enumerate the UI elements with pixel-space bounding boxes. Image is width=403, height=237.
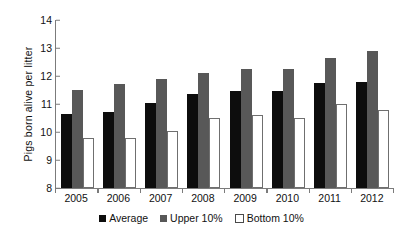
bar (61, 114, 72, 188)
x-axis-labels: 20052006200720082009201020112012 (55, 192, 393, 204)
y-axis-tick: 12 (40, 71, 56, 82)
bar-group (98, 20, 140, 188)
bar (198, 73, 209, 188)
bar-group (225, 20, 267, 188)
bar-group (183, 20, 225, 188)
x-axis-tick-label: 2009 (224, 192, 266, 204)
bar (336, 104, 347, 188)
bar-group (141, 20, 183, 188)
legend-swatch (235, 214, 244, 223)
y-axis-tick: 10 (40, 127, 56, 138)
bar (167, 131, 178, 188)
legend-label: Average (109, 212, 148, 224)
bar (156, 79, 167, 188)
bar (272, 91, 283, 188)
y-axis-tick: 9 (46, 155, 56, 166)
y-axis-tick: 11 (41, 99, 56, 110)
bar (252, 115, 263, 188)
bar (145, 103, 156, 188)
bar-group (310, 20, 352, 188)
bar (230, 91, 241, 188)
legend-label: Upper 10% (170, 212, 223, 224)
bar (356, 82, 367, 188)
x-axis-tick-label: 2005 (55, 192, 97, 204)
bar (72, 90, 83, 188)
bar (283, 69, 294, 188)
y-axis-tick-label: 12 (40, 71, 56, 82)
y-axis-tick-label: 14 (40, 15, 56, 26)
bar-group (56, 20, 98, 188)
bar (125, 138, 136, 188)
bar (209, 118, 220, 188)
legend-item: Upper 10% (160, 212, 223, 224)
bar-group (352, 20, 394, 188)
bar-chart: Pigs born alive per litter 891011121314 … (0, 0, 403, 237)
plot-area: 891011121314 (55, 20, 394, 189)
bar (114, 84, 125, 188)
bar (103, 112, 114, 188)
bar (294, 118, 305, 188)
y-axis-tick-label: 9 (46, 155, 56, 166)
y-axis-tick-label: 10 (40, 127, 56, 138)
x-axis-tick-label: 2012 (351, 192, 393, 204)
bar (83, 138, 94, 188)
bar (241, 69, 252, 188)
y-axis-tick-label: 13 (40, 43, 56, 54)
y-axis-tick: 13 (40, 43, 56, 54)
bar (187, 94, 198, 188)
bar (367, 51, 378, 188)
legend-swatch (160, 215, 167, 222)
x-axis-tick-label: 2007 (140, 192, 182, 204)
x-axis-tick-label: 2011 (309, 192, 351, 204)
y-axis-title: Pigs born alive per litter (22, 14, 34, 194)
legend-item: Average (99, 212, 148, 224)
legend-label: Bottom 10% (247, 212, 304, 224)
bar (325, 58, 336, 188)
legend-item: Bottom 10% (235, 212, 304, 224)
bar (378, 110, 389, 188)
x-axis-tick-label: 2006 (97, 192, 139, 204)
bar (314, 83, 325, 188)
bar-group (267, 20, 309, 188)
y-axis-tick-label: 11 (41, 99, 56, 110)
bars-layer (56, 20, 394, 188)
x-axis-tick-mark (393, 188, 394, 193)
x-axis-tick-label: 2008 (182, 192, 224, 204)
legend-swatch (99, 215, 106, 222)
x-axis-tick-label: 2010 (266, 192, 308, 204)
chart-legend: AverageUpper 10%Bottom 10% (0, 212, 403, 224)
y-axis-tick: 14 (40, 15, 56, 26)
